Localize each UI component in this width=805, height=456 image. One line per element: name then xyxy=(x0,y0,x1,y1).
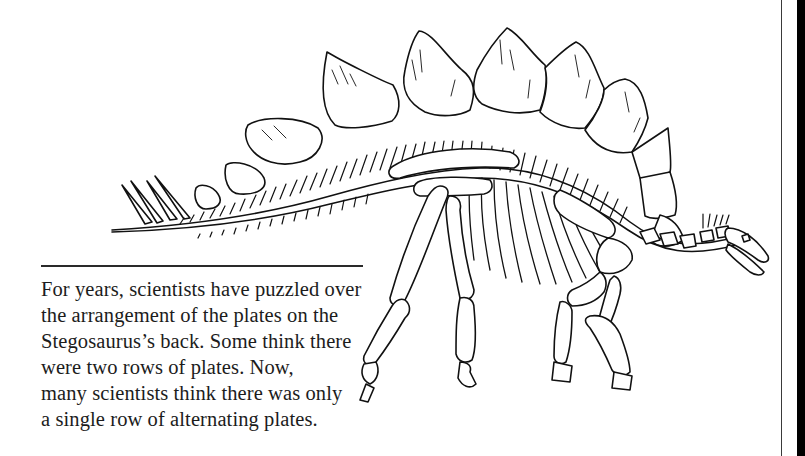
tail-spikes xyxy=(122,176,190,224)
caption-line: For years, scientists have puzzled over xyxy=(41,276,371,302)
hind-leg-left xyxy=(360,186,448,402)
caption-line: many scientists think there was only xyxy=(41,380,371,406)
caption-line: the arrangement of the plates on the xyxy=(41,302,371,328)
caption-line: Stegosaurus’s back. Some think there xyxy=(41,328,371,354)
page-margin-line xyxy=(781,0,782,456)
caption-line: were two rows of plates. Now, xyxy=(41,354,371,380)
caption-line: a single row of alternating plates. xyxy=(41,406,371,432)
hind-leg-right xyxy=(446,196,476,387)
page: For years, scientists have puzzled over … xyxy=(0,0,805,456)
caption-divider-rule xyxy=(41,265,363,267)
page-edge-bar xyxy=(797,0,805,456)
skull xyxy=(725,228,768,275)
caption-text: For years, scientists have puzzled over … xyxy=(41,276,371,432)
pelvis xyxy=(389,149,519,196)
